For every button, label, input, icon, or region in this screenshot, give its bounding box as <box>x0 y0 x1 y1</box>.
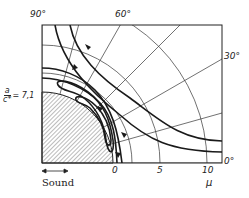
angle-label-90: 90° <box>30 10 46 19</box>
angle-label-0: 0° <box>224 157 234 166</box>
arrow-icon <box>85 44 91 50</box>
parameter-denominator: c* <box>3 96 11 104</box>
angle-label-30: 30° <box>224 52 240 61</box>
angle-label-60: 60° <box>115 10 131 19</box>
sound-double-arrow-icon <box>42 169 68 173</box>
radial-label-5: 5 <box>157 166 163 175</box>
radial-label-0: 0 <box>112 166 118 175</box>
parameter-label: a c* = 7,1 <box>3 87 34 104</box>
sound-label: Sound <box>42 178 74 188</box>
arrow-icon <box>121 132 127 138</box>
parameter-value: = 7,1 <box>12 91 34 100</box>
radial-label-10: 10 <box>202 166 213 175</box>
axis-label-mu: μ <box>206 178 212 188</box>
